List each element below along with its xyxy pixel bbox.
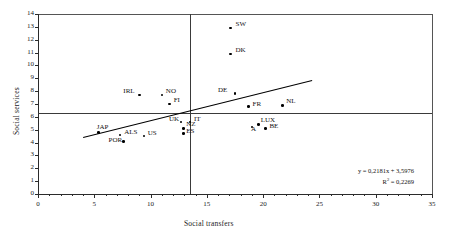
y-tick-mark <box>35 181 38 182</box>
data-point-label: FI <box>174 97 180 104</box>
x-tick-mark <box>61 194 62 196</box>
regression-equation: y = 0,2181x + 3,5976 <box>310 166 414 175</box>
y-tick-mark <box>35 53 38 54</box>
y-tick-mark <box>35 168 38 169</box>
x-tick-mark <box>263 194 264 198</box>
x-tick-mark <box>139 194 140 196</box>
x-tick-label: 15 <box>195 201 219 208</box>
data-point[interactable] <box>182 127 185 130</box>
data-point-label: US <box>148 130 157 137</box>
x-tick-mark <box>196 194 197 196</box>
data-point-label: JAP <box>97 124 109 131</box>
x-tick-mark <box>297 194 298 196</box>
y-tick-mark <box>35 104 38 105</box>
y-tick-mark <box>35 143 38 144</box>
x-tick-mark <box>173 194 174 196</box>
trendline-equation-block: y = 0,2181x + 3,5976 R2 = 0,2269 <box>310 166 414 186</box>
data-point-label: NL <box>286 98 295 105</box>
y-tick-label: 13 <box>16 23 34 30</box>
data-point-label: A <box>251 126 256 133</box>
x-tick-mark <box>83 194 84 196</box>
data-point[interactable] <box>182 132 185 135</box>
x-tick-label: 0 <box>26 201 50 208</box>
x-axis-title: Social transfers <box>184 219 234 228</box>
x-tick-mark <box>319 194 320 198</box>
data-point-label: UK <box>169 116 179 123</box>
data-point[interactable] <box>264 127 267 130</box>
x-tick-mark <box>342 194 343 196</box>
data-point-label: FR <box>253 101 262 108</box>
x-tick-mark <box>432 194 433 198</box>
y-tick-mark <box>35 117 38 118</box>
x-tick-label: 35 <box>420 201 444 208</box>
y-tick-label: 9 <box>16 74 34 81</box>
reference-line-horizontal <box>38 113 432 114</box>
y-tick-label: 4 <box>16 139 34 146</box>
x-tick-mark <box>94 194 95 198</box>
data-point[interactable] <box>138 94 141 97</box>
x-tick-mark <box>49 194 50 196</box>
x-tick-mark <box>376 194 377 198</box>
r-squared-value: = 0,2269 <box>389 178 414 185</box>
y-tick-label: 2 <box>16 164 34 171</box>
data-point-label: NO <box>166 88 176 95</box>
data-point[interactable] <box>247 105 250 108</box>
data-point-label: BE <box>269 123 278 130</box>
x-tick-mark <box>229 194 230 196</box>
x-tick-mark <box>252 194 253 196</box>
data-point-label: DE <box>218 87 227 94</box>
x-tick-mark <box>398 194 399 196</box>
x-tick-mark <box>364 194 365 196</box>
x-tick-mark <box>151 194 152 198</box>
x-tick-mark <box>218 194 219 196</box>
x-tick-mark <box>241 194 242 196</box>
y-tick-label: 11 <box>16 49 34 56</box>
data-point[interactable] <box>229 53 232 56</box>
x-tick-mark <box>106 194 107 196</box>
data-point[interactable] <box>281 104 284 107</box>
y-tick-mark <box>35 27 38 28</box>
data-point-label: SW <box>235 21 246 28</box>
y-tick-label: 1 <box>16 177 34 184</box>
y-tick-label: 10 <box>16 61 34 68</box>
x-tick-mark <box>387 194 388 196</box>
x-axis-line <box>38 194 432 195</box>
x-tick-label: 25 <box>307 201 331 208</box>
x-tick-mark <box>353 194 354 196</box>
r-squared: R2 = 0,2269 <box>310 175 414 186</box>
y-tick-mark <box>35 130 38 131</box>
y-tick-mark <box>35 155 38 156</box>
x-tick-mark <box>162 194 163 196</box>
reference-line-vertical <box>190 14 191 194</box>
x-tick-mark <box>331 194 332 196</box>
y-tick-label: 5 <box>16 126 34 133</box>
y-tick-mark <box>35 78 38 79</box>
data-point[interactable] <box>97 131 100 134</box>
data-point[interactable] <box>122 140 125 143</box>
data-point-label: IRL <box>123 88 134 95</box>
x-tick-mark <box>421 194 422 196</box>
data-point[interactable] <box>257 123 260 126</box>
x-tick-mark <box>117 194 118 196</box>
y-tick-mark <box>35 65 38 66</box>
x-tick-label: 5 <box>82 201 106 208</box>
y-tick-label: 12 <box>16 36 34 43</box>
x-tick-mark <box>184 194 185 196</box>
y-tick-label: 0 <box>16 190 34 197</box>
y-axis-line <box>38 14 39 194</box>
y-tick-label: 8 <box>16 87 34 94</box>
y-tick-mark <box>35 91 38 92</box>
chart-container: Social transfers Social services y = 0,2… <box>0 0 453 241</box>
y-tick-label: 3 <box>16 151 34 158</box>
x-tick-mark <box>274 194 275 196</box>
x-tick-mark <box>409 194 410 196</box>
x-tick-mark <box>286 194 287 196</box>
y-tick-mark <box>35 40 38 41</box>
x-tick-label: 10 <box>139 201 163 208</box>
y-tick-label: 14 <box>16 10 34 17</box>
y-tick-label: 6 <box>16 113 34 120</box>
x-tick-mark <box>308 194 309 196</box>
data-point-label: POR <box>109 137 123 144</box>
data-point-label: ES <box>186 128 194 135</box>
x-tick-mark <box>128 194 129 196</box>
